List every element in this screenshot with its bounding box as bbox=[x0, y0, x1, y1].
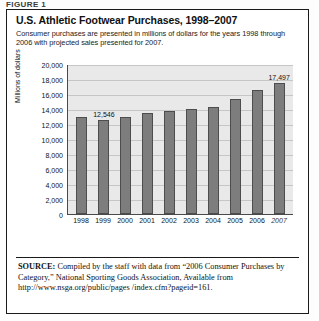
bar-value-label: 12,546 bbox=[93, 111, 114, 118]
y-axis-tick-label: 20,000 bbox=[42, 62, 63, 69]
source-prefix: SOURCE: bbox=[18, 262, 55, 271]
bar bbox=[76, 117, 87, 215]
y-axis-ticks: 20,00018,00016,00014,00012,00010,0008,00… bbox=[25, 65, 65, 215]
x-axis-tick-label: 1999 bbox=[92, 217, 114, 224]
figure-frame: U.S. Athletic Footwear Purchases, 1998–2… bbox=[6, 9, 309, 314]
y-axis-tick-label: 18,000 bbox=[42, 77, 63, 84]
bar bbox=[98, 120, 109, 214]
bar-slot bbox=[181, 65, 203, 214]
bar bbox=[208, 107, 219, 214]
bar bbox=[252, 90, 263, 214]
x-axis-tick-label: 2002 bbox=[158, 217, 180, 224]
bar-chart: Millions of dollars 20,00018,00016,00014… bbox=[15, 65, 301, 250]
bar bbox=[186, 109, 197, 214]
x-axis-tick-label: 2006 bbox=[246, 217, 268, 224]
x-axis-tick-label: 2007 bbox=[268, 217, 290, 224]
y-axis-tick-label: 14,000 bbox=[42, 107, 63, 114]
x-axis-ticks: 1998199920002001200220032004200520062007 bbox=[67, 217, 293, 224]
bar-slot bbox=[159, 65, 181, 214]
bar-slot bbox=[202, 65, 224, 214]
x-axis-tick-label: 2005 bbox=[224, 217, 246, 224]
y-axis-tick-label: 16,000 bbox=[42, 92, 63, 99]
bar bbox=[142, 113, 153, 214]
bar bbox=[164, 111, 175, 215]
y-axis-tick-label: 12,000 bbox=[42, 122, 63, 129]
bar-value-label: 17,497 bbox=[268, 74, 289, 81]
bar-slot bbox=[137, 65, 159, 214]
plot-area: 12,54617,497 bbox=[67, 65, 293, 215]
bar-slot: 12,546 bbox=[93, 65, 115, 214]
bar-slot bbox=[246, 65, 268, 214]
x-axis-tick-label: 2003 bbox=[180, 217, 202, 224]
y-axis-tick-label: 8,000 bbox=[45, 152, 63, 159]
x-axis-tick-label: 2000 bbox=[114, 217, 136, 224]
source-note: SOURCE: Compiled by the staff with data … bbox=[18, 262, 298, 294]
bar bbox=[274, 83, 285, 214]
y-axis-tick-label: 6,000 bbox=[45, 167, 63, 174]
source-divider bbox=[16, 257, 299, 258]
x-axis-tick-label: 2001 bbox=[136, 217, 158, 224]
bar-slot bbox=[115, 65, 137, 214]
bar-series: 12,54617,497 bbox=[68, 65, 293, 214]
figure-label: FIGURE 1 bbox=[6, 0, 46, 8]
x-axis-tick-label: 2004 bbox=[202, 217, 224, 224]
y-axis-tick-label: 0 bbox=[59, 212, 63, 219]
bar-slot bbox=[71, 65, 93, 214]
y-axis-tick-label: 10,000 bbox=[42, 137, 63, 144]
figure-subtitle: Consumer purchases are presented in mill… bbox=[16, 29, 300, 48]
bar bbox=[120, 117, 131, 214]
bar bbox=[230, 99, 241, 215]
bar-slot bbox=[224, 65, 246, 214]
figure-header: U.S. Athletic Footwear Purchases, 1998–2… bbox=[16, 14, 300, 48]
y-axis-title: Millions of dollars bbox=[14, 39, 21, 103]
y-axis-tick-label: 4,000 bbox=[45, 182, 63, 189]
figure-container: FIGURE 1 U.S. Athletic Footwear Purchase… bbox=[0, 0, 319, 321]
x-axis-tick-label: 1998 bbox=[70, 217, 92, 224]
page-title: U.S. Athletic Footwear Purchases, 1998–2… bbox=[16, 14, 300, 26]
bar-slot: 17,497 bbox=[268, 65, 290, 214]
y-axis-tick-label: 2,000 bbox=[45, 197, 63, 204]
source-text: Compiled by the staff with data from “20… bbox=[18, 262, 284, 292]
